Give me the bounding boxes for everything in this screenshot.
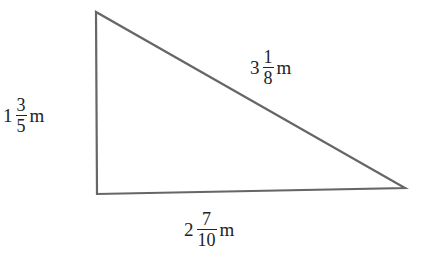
bottom-side-fraction: 7 10 — [197, 210, 217, 249]
bottom-side-whole: 2 — [184, 220, 194, 239]
bottom-side-label: 2 7 10 m — [184, 210, 234, 249]
left-side-fraction: 3 5 — [16, 96, 27, 135]
left-side-label: 1 3 5 m — [3, 96, 44, 135]
hypotenuse-whole: 3 — [250, 58, 260, 77]
left-side-numerator: 3 — [16, 96, 27, 115]
hypotenuse-label: 3 1 8 m — [250, 48, 291, 87]
left-side-denominator: 5 — [16, 116, 27, 135]
bottom-side-numerator: 7 — [201, 210, 212, 229]
hypotenuse-numerator: 1 — [263, 48, 274, 67]
hypotenuse-denominator: 8 — [263, 68, 274, 87]
left-side-whole: 1 — [3, 106, 13, 125]
right-triangle — [96, 12, 405, 194]
bottom-side-denominator: 10 — [197, 230, 217, 249]
hypotenuse-fraction: 1 8 — [263, 48, 274, 87]
left-side-unit: m — [30, 106, 45, 125]
bottom-side-unit: m — [220, 220, 235, 239]
hypotenuse-unit: m — [277, 58, 292, 77]
